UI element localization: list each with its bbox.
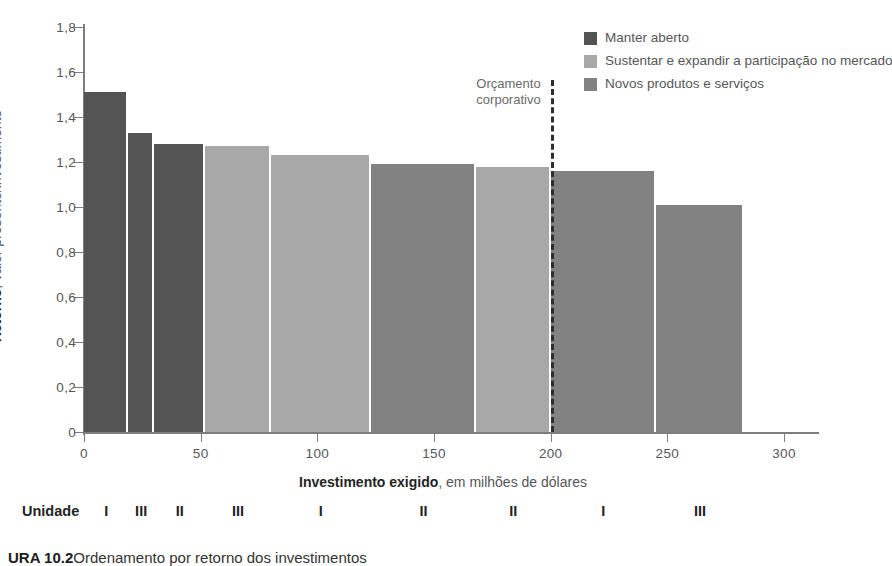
y-tick-label-9: 1,8	[56, 20, 76, 35]
budget-annotation-line1: Orçamento	[441, 76, 541, 92]
y-tick-label-7: 1,4	[56, 110, 76, 125]
x-axis-line	[83, 432, 819, 434]
x-tick-label-0: 0	[80, 446, 88, 461]
y-axis-title-bold: Retorno	[0, 289, 4, 343]
x-tick-5	[667, 432, 668, 442]
legend-label-3: Novos produtos e serviços	[605, 76, 764, 92]
bar-7	[476, 167, 551, 433]
x-tick-2	[317, 432, 318, 442]
bar-9	[656, 205, 745, 432]
y-tick-label-8: 1,6	[56, 65, 76, 80]
x-tick-label-2: 100	[306, 446, 329, 461]
legend-item-1: Manter aberto	[584, 30, 892, 46]
legend-swatch-icon-3	[584, 78, 597, 91]
x-tick-6	[784, 432, 785, 442]
y-tick-label-4: 0,8	[56, 245, 76, 260]
bar-8	[551, 171, 656, 432]
legend-label-1: Manter aberto	[605, 30, 689, 46]
unit-mark-1: I	[104, 503, 108, 519]
unit-mark-8: I	[601, 503, 605, 519]
bar-3	[154, 144, 205, 432]
unit-mark-3: II	[176, 503, 184, 519]
legend-item-2: Sustentar e expandir a participação no m…	[584, 53, 892, 69]
y-tick-label-1: 0,2	[56, 380, 76, 395]
unit-mark-7: II	[509, 503, 517, 519]
unit-axis-title: Unidade	[22, 503, 79, 519]
bar-5	[271, 155, 371, 432]
unit-mark-2: III	[135, 503, 147, 519]
x-tick-label-3: 150	[422, 446, 445, 461]
x-tick-0	[84, 432, 85, 442]
y-axis-title: Retorno, valor presente/investimento	[0, 110, 4, 343]
x-tick-1	[201, 432, 202, 442]
x-tick-3	[434, 432, 435, 442]
budget-line	[551, 80, 554, 432]
x-tick-label-5: 250	[656, 446, 679, 461]
x-axis-title: Investimento exigido, em milhões de dóla…	[0, 474, 886, 490]
x-tick-label-1: 50	[193, 446, 209, 461]
x-tick-label-6: 300	[772, 446, 795, 461]
bar-4	[205, 146, 270, 432]
y-tick-label-0: 0	[68, 425, 76, 440]
figure-caption: URA 10.2Ordenamento por retorno dos inve…	[8, 549, 886, 566]
legend-swatch-icon-2	[584, 55, 597, 68]
unit-axis-row: Unidade IIIIIIIIIIIIIIIIII	[0, 503, 886, 529]
figure-caption-number: URA 10.2	[8, 549, 73, 566]
budget-annotation-line2: corporativo	[441, 92, 541, 108]
bar-2	[128, 133, 154, 432]
unit-mark-6: II	[419, 503, 427, 519]
y-axis-title-rest: , valor presente/investimento	[0, 110, 4, 289]
x-tick-4	[551, 432, 552, 442]
y-tick-label-2: 0,4	[56, 335, 76, 350]
figure-caption-text: Ordenamento por retorno dos investimento…	[73, 549, 367, 566]
unit-mark-4: III	[232, 503, 244, 519]
x-tick-label-4: 200	[539, 446, 562, 461]
legend: Manter abertoSustentar e expandir a part…	[584, 30, 892, 100]
y-tick-label-6: 1,2	[56, 155, 76, 170]
legend-label-2: Sustentar e expandir a participação no m…	[605, 53, 892, 69]
bar-6	[371, 164, 476, 432]
y-tick-label-5: 1,0	[56, 200, 76, 215]
unit-mark-9: III	[694, 503, 706, 519]
legend-item-3: Novos produtos e serviços	[584, 76, 892, 92]
unit-mark-5: I	[319, 503, 323, 519]
x-axis-title-rest: , em milhões de dólares	[438, 474, 587, 490]
bar-1	[84, 92, 128, 432]
x-axis-title-bold: Investimento exigido	[299, 474, 438, 490]
legend-swatch-icon-1	[584, 32, 597, 45]
y-tick-label-3: 0,6	[56, 290, 76, 305]
budget-annotation-label: Orçamento corporativo	[441, 76, 541, 108]
